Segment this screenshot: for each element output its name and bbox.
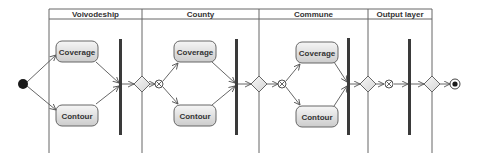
action-voivodeship-coverage[interactable]: Coverage: [56, 41, 98, 62]
decision-node-icon: [251, 76, 267, 92]
action-label: Contour: [61, 112, 92, 121]
sync-bar-output: [408, 39, 411, 135]
flow-final-node-icon: [155, 80, 163, 88]
lane-header-commune: Commune: [294, 10, 334, 19]
action-commune-contour[interactable]: Contour: [296, 106, 338, 127]
initial-node-icon: [18, 79, 28, 89]
lane-header-county: County: [187, 10, 215, 19]
action-voivodeship-contour[interactable]: Contour: [56, 105, 98, 126]
action-label: Contour: [301, 113, 332, 122]
action-label: Contour: [179, 112, 210, 121]
decision-node-icon: [424, 76, 440, 92]
activity-final-node-icon: [450, 79, 460, 89]
decision-node-icon: [134, 76, 150, 92]
flow-final-node-icon: [278, 80, 286, 88]
action-label: Coverage: [299, 49, 336, 58]
lane-header-voivodeship: Voivodeship: [72, 10, 119, 19]
activity-diagram: Voivodeship County Commune Output layer: [0, 0, 478, 162]
decision-node-icon: [360, 76, 376, 92]
action-commune-coverage[interactable]: Coverage: [296, 42, 338, 63]
flow-final-node-icon: [385, 80, 393, 88]
sync-bar-commune: [347, 38, 350, 135]
lane-header-output-layer: Output layer: [376, 10, 423, 19]
action-label: Coverage: [177, 48, 214, 57]
action-label: Coverage: [59, 48, 96, 57]
swimlane-frame: [49, 9, 432, 153]
action-county-contour[interactable]: Contour: [174, 105, 216, 126]
sync-bar-voivodeship: [119, 39, 122, 135]
sync-bar-county: [235, 39, 238, 135]
action-county-coverage[interactable]: Coverage: [174, 41, 216, 62]
